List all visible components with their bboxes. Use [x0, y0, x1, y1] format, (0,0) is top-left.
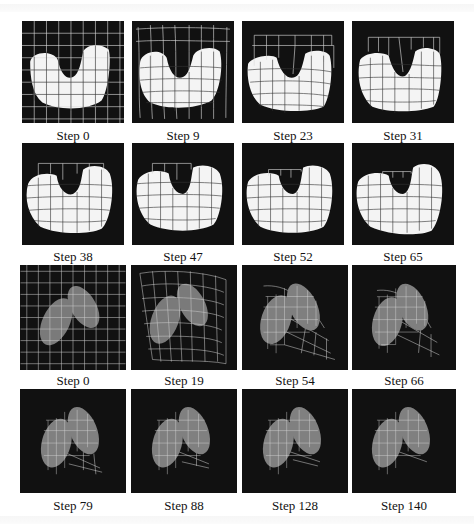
bleed-through-text-top — [0, 4, 474, 12]
panel-label: Step 66 — [349, 373, 459, 389]
lung-grid-image — [131, 265, 237, 370]
u-shape-grid-image — [352, 21, 454, 123]
panel-u-step-52 — [242, 143, 344, 245]
lung-grid-image — [352, 265, 456, 370]
panel-lung-step-79 — [20, 389, 126, 493]
panel-lung-step-140 — [352, 389, 456, 493]
panel-lung-step-19 — [131, 265, 237, 370]
lung-grid-image — [352, 389, 456, 493]
panel-u-step-65 — [352, 143, 454, 245]
panel-lung-step-66 — [352, 265, 456, 370]
panel-u-step-47 — [132, 143, 234, 245]
panel-label: Step 128 — [240, 498, 350, 514]
lung-grid-image — [242, 389, 348, 493]
panel-lung-step-54 — [242, 265, 348, 370]
panel-lung-step-0 — [20, 265, 126, 370]
u-shape-grid-image — [22, 21, 124, 123]
panel-u-step-31 — [352, 21, 454, 123]
lung-grid-image — [242, 265, 348, 370]
lung-grid-image — [20, 389, 126, 493]
u-shape-grid-image — [242, 21, 344, 123]
u-shape-grid-image — [22, 143, 124, 245]
panel-label: Step 140 — [349, 498, 459, 514]
panel-label: Step 19 — [129, 373, 239, 389]
panel-label: Step 0 — [18, 373, 128, 389]
u-shape-grid-image — [132, 143, 234, 245]
panel-label: Step 9 — [128, 128, 238, 144]
panel-lung-step-128 — [242, 389, 348, 493]
lung-grid-image — [20, 265, 126, 370]
panel-lung-step-88 — [131, 389, 237, 493]
panel-label: Step 88 — [129, 498, 239, 514]
panel-label: Step 38 — [18, 249, 128, 265]
panel-u-step-38 — [22, 143, 124, 245]
panel-label: Step 0 — [18, 128, 128, 144]
panel-u-step-0 — [22, 21, 124, 123]
panel-u-step-9 — [132, 21, 234, 123]
panel-label: Step 47 — [128, 249, 238, 265]
u-shape-grid-image — [132, 21, 234, 123]
panel-label: Step 79 — [18, 498, 128, 514]
panel-label: Step 54 — [240, 373, 350, 389]
panel-u-step-23 — [242, 21, 344, 123]
u-shape-grid-image — [352, 143, 454, 245]
u-shape-grid-image — [242, 143, 344, 245]
panel-label: Step 31 — [348, 128, 458, 144]
panel-label: Step 65 — [348, 249, 458, 265]
lung-grid-image — [131, 389, 237, 493]
panel-label: Step 23 — [238, 128, 348, 144]
panel-label: Step 52 — [238, 249, 348, 265]
bleed-through-text-bottom — [0, 516, 474, 524]
